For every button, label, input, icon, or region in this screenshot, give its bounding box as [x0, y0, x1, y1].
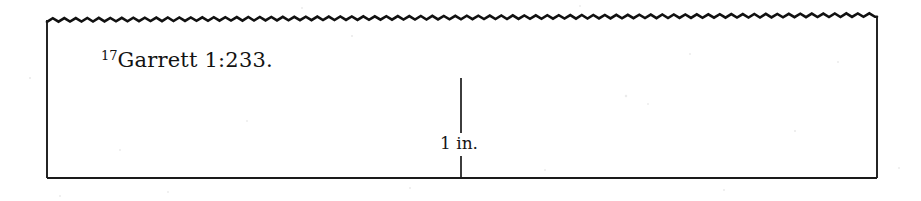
footnote-citation: Garrett 1:233.	[118, 48, 273, 72]
figure-screenshot: 17Garrett 1:233. 1 in.	[0, 0, 921, 201]
figure-panel	[0, 0, 921, 201]
scale-bar-label: 1 in.	[437, 133, 503, 154]
footnote-marker: 17	[101, 48, 118, 63]
torn-top-edge-path	[47, 13, 877, 21]
figure-box-outline	[0, 0, 921, 201]
footnote-text: 17Garrett 1:233.	[101, 43, 273, 73]
